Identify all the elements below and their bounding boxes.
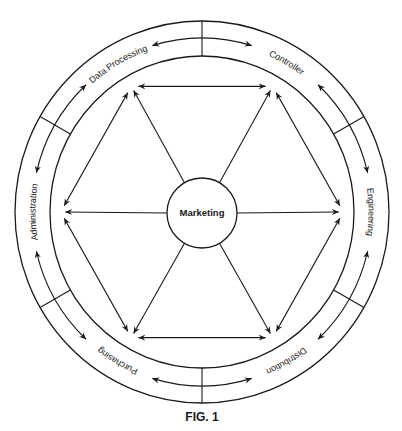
segment-label-engineering: Engineering xyxy=(365,187,377,236)
figure-caption: FIG. 1 xyxy=(185,410,219,424)
organization-wheel-diagram: Marketing Data ProcessingControllerEngin… xyxy=(0,0,402,431)
spoke-arrow xyxy=(220,243,271,333)
hexagon-arrow xyxy=(276,93,340,206)
spoke-arrow xyxy=(134,90,185,182)
segment-label-data-processing: Data Processing xyxy=(87,43,149,85)
spoke-arrow xyxy=(220,90,271,182)
segment-divider xyxy=(334,117,364,135)
segment-divider xyxy=(334,290,364,308)
hexagon-arrow xyxy=(64,93,128,206)
segment-divider xyxy=(40,117,70,135)
spoke-arrow xyxy=(134,243,185,333)
segment-label-controller: Controller xyxy=(268,48,307,76)
segment-label-administration: Administration xyxy=(27,183,39,241)
hexagon-arrow xyxy=(64,218,128,331)
segment-divider xyxy=(40,290,70,308)
hexagon-arrow xyxy=(276,218,340,331)
spoke-arrow xyxy=(65,212,167,213)
hub-label: Marketing xyxy=(180,207,225,218)
spoke-arrow xyxy=(237,212,339,213)
